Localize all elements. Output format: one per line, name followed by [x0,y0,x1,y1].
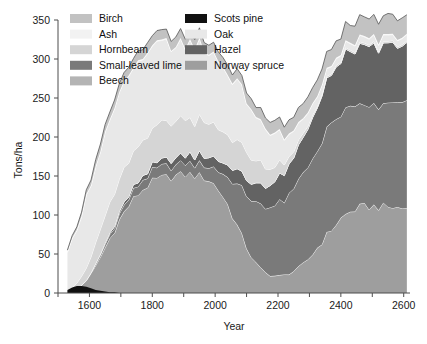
y-tick-label: 50 [38,248,50,260]
y-axis-ticks: 050100150200250300350 [32,14,58,299]
x-tick-label: 2600 [392,299,416,311]
x-tick-label: 1800 [141,299,165,311]
legend-swatch [185,61,207,70]
x-axis-title: Year [223,320,245,332]
legend-swatch [70,45,92,54]
x-tick-label: 2200 [266,299,290,311]
y-tick-label: 150 [32,170,50,182]
legend-swatch [70,76,92,85]
y-tick-label: 0 [44,287,50,299]
legend-label: Small-leaved lime [99,59,182,71]
y-tick-label: 350 [32,14,50,26]
legend-swatch [70,61,92,70]
legend-swatch [185,45,207,54]
legend-label: Oak [214,28,234,40]
legend-swatch [185,14,207,23]
chart-figure: 050100150200250300350 160018002000220024… [0,0,427,344]
legend-label: Ash [99,28,117,40]
y-axis-title: Tons/ha [12,141,24,178]
x-axis-ticks: 160018002000220024002600 [58,293,416,311]
y-tick-label: 300 [32,53,50,65]
legend-label: Norway spruce [214,59,284,71]
stacked-area-chart: 050100150200250300350 160018002000220024… [0,0,427,344]
legend-swatch [70,14,92,23]
legend-item: Scots pine [185,12,263,24]
legend-label: Beech [99,74,129,86]
legend-label: Birch [99,12,123,24]
legend-label: Hazel [214,43,241,55]
y-tick-label: 250 [32,92,50,104]
x-tick-label: 1600 [78,299,102,311]
y-tick-label: 100 [32,209,50,221]
legend-swatch [70,30,92,39]
x-tick-label: 2400 [329,299,353,311]
legend-swatch [185,30,207,39]
y-tick-label: 200 [32,131,50,143]
x-tick-label: 2000 [203,299,227,311]
legend-label: Scots pine [214,12,263,24]
legend-label: Hornbeam [99,43,148,55]
